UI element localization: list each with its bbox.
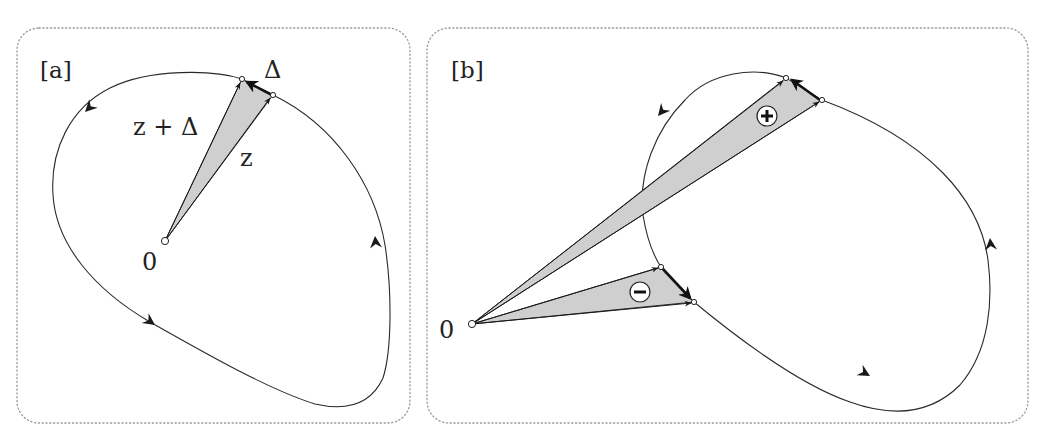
origin-point	[161, 237, 168, 244]
panel-a: [a] 0 Δ z + Δ z	[17, 28, 410, 423]
panel-a-label: [a]	[40, 57, 72, 83]
label-z-plus-delta: z + Δ	[133, 113, 198, 141]
panel-b: [b] 0	[427, 28, 1028, 423]
point-top-2	[819, 97, 824, 102]
minus-circle-icon	[630, 282, 650, 302]
direction-arrow-icon	[369, 235, 382, 248]
point-z-plus-delta	[239, 76, 244, 81]
direction-arrow-icon	[857, 365, 873, 381]
point-top-1	[783, 75, 788, 80]
panel-a-border	[17, 28, 410, 423]
vector-z-plus-delta	[165, 83, 240, 241]
direction-arrow-icon	[142, 313, 159, 330]
label-z: z	[240, 144, 253, 172]
panel-b-border	[427, 28, 1028, 423]
direction-arrow-icon	[984, 237, 997, 250]
point-mid-1	[658, 264, 663, 269]
panel-b-wedge-negative	[472, 267, 694, 324]
label-delta: Δ	[264, 56, 281, 84]
plus-circle-icon	[757, 106, 777, 126]
panel-a-wedge	[165, 79, 273, 241]
origin-point	[468, 320, 475, 327]
origin-label: 0	[439, 316, 454, 344]
point-mid-2	[691, 299, 696, 304]
direction-arrow-icon	[653, 103, 670, 120]
winding-diagram: [a] 0 Δ z + Δ z [b]	[0, 0, 1042, 441]
point-z	[270, 92, 275, 97]
origin-label: 0	[142, 248, 157, 276]
panel-b-label: [b]	[451, 57, 484, 83]
panel-b-curve	[642, 72, 990, 411]
